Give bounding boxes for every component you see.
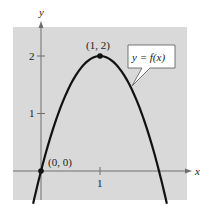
x-tick-label-1: 1: [97, 177, 103, 189]
vertex-point-label: (1, 2): [86, 39, 110, 52]
callout-label: y = f(x): [131, 51, 165, 64]
function-graph: x y 1 1 2 (0, 0) (1, 2) y = f(x): [0, 0, 203, 212]
x-axis-label: x: [194, 165, 200, 177]
y-tick-label-1: 1: [29, 107, 35, 119]
y-tick-label-2: 2: [29, 50, 35, 62]
y-axis-arrow-icon: [39, 21, 44, 28]
x-axis-arrow-icon: [185, 169, 192, 174]
y-axis-label: y: [38, 6, 44, 18]
origin-point: [38, 168, 44, 174]
origin-point-label: (0, 0): [48, 156, 72, 169]
vertex-point: [97, 53, 103, 59]
